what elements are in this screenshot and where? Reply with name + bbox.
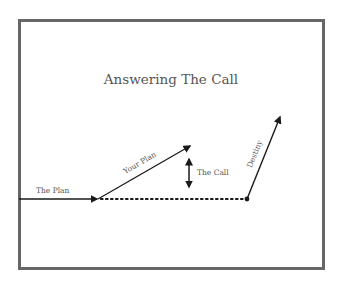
- diagram-title: Answering The Call: [103, 71, 238, 87]
- diagram-canvas: Answering The Call The Plan Your Plan Th…: [0, 0, 338, 284]
- your-plan-arrow: [98, 146, 190, 199]
- your-plan-label: Your Plan: [121, 150, 158, 177]
- the-plan-label: The Plan: [36, 186, 70, 195]
- the-call-label: The Call: [197, 168, 229, 177]
